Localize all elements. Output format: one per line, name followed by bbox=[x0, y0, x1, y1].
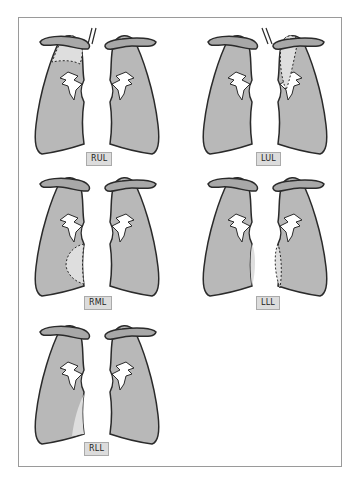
trachea-deviation-icon bbox=[262, 28, 272, 44]
lungs-rul-diagram bbox=[22, 20, 172, 160]
panel-rul bbox=[22, 20, 172, 160]
label-lll: LLL bbox=[256, 296, 280, 310]
panel-lll bbox=[190, 162, 340, 302]
lungs-lul-diagram bbox=[190, 20, 340, 160]
lungs-lll-diagram bbox=[190, 162, 340, 302]
label-rml: RML bbox=[84, 296, 112, 310]
panel-lul bbox=[190, 20, 340, 160]
lungs-rml-diagram bbox=[22, 162, 172, 302]
panel-rml bbox=[22, 162, 172, 302]
label-rll: RLL bbox=[84, 442, 109, 456]
trachea-deviation-icon bbox=[88, 28, 96, 44]
lungs-rll-diagram bbox=[22, 310, 172, 450]
panel-rll bbox=[22, 310, 172, 450]
